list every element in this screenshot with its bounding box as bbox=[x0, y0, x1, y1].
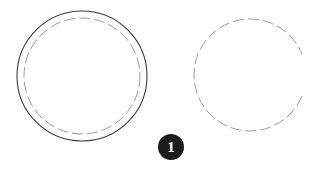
step-number-badge: 1 bbox=[158, 134, 184, 160]
badge-number-label: 1 bbox=[158, 134, 184, 160]
figure-root: 1 bbox=[0, 0, 317, 171]
